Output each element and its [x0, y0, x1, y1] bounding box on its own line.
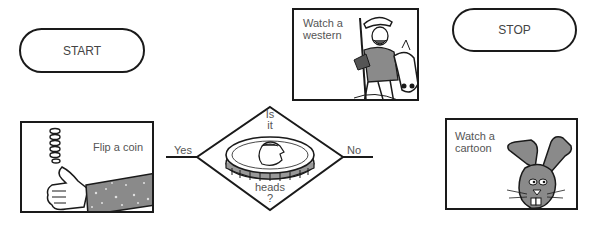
watch-cartoon-box: Watch a cartoon	[445, 118, 578, 210]
decision-line2: it	[262, 120, 278, 131]
decision-text-bottom: heads ?	[250, 182, 290, 204]
decision-text-top: Is it	[262, 109, 278, 131]
rabbit-icon	[447, 120, 578, 210]
no-label: No	[347, 144, 361, 156]
decision-line4: ?	[250, 193, 290, 204]
yes-label: Yes	[174, 144, 192, 156]
coin-icon	[226, 137, 314, 181]
